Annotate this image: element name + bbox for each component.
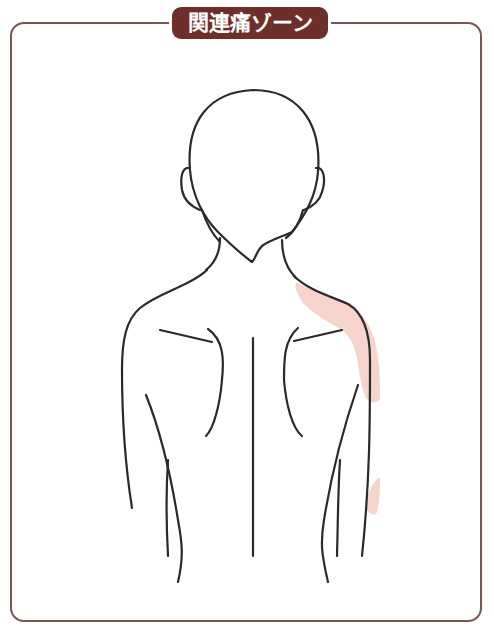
left-torso-side bbox=[167, 460, 169, 556]
neck-left bbox=[206, 238, 220, 270]
title-badge: 関連痛ゾーン bbox=[172, 7, 328, 39]
neck-right bbox=[282, 240, 296, 278]
left-arm-inner bbox=[146, 395, 182, 582]
body-back-view-figure bbox=[0, 0, 494, 632]
head-outline bbox=[190, 90, 319, 262]
left-scapula-top bbox=[160, 330, 212, 342]
left-shoulder bbox=[122, 270, 207, 508]
left-ear-lobe bbox=[202, 210, 220, 242]
body-outline bbox=[122, 90, 370, 582]
right-scapula-edge bbox=[284, 328, 302, 436]
right-arm-inner bbox=[322, 385, 358, 582]
left-scapula-edge bbox=[206, 329, 223, 436]
right-scapula-top bbox=[294, 330, 342, 341]
right-torso-side bbox=[337, 460, 340, 556]
